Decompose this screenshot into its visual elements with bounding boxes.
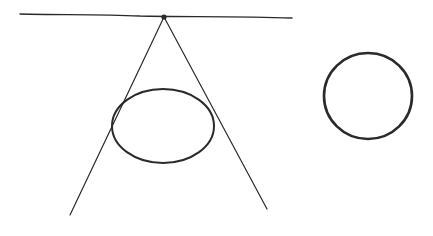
left-tangent-line [70,17,164,215]
ellipse [112,89,214,163]
apex-point [161,14,166,19]
sketch-canvas [0,0,433,236]
circle [324,53,412,139]
horizontal-line [20,14,292,18]
right-tangent-line [164,17,267,209]
